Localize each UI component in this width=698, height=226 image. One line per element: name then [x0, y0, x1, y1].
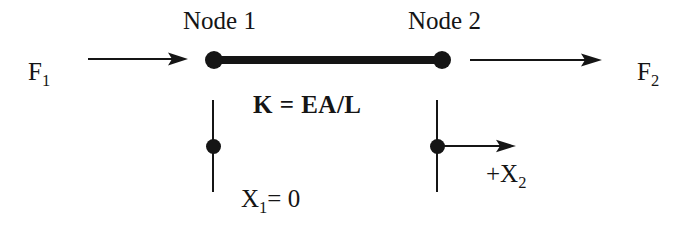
force-f2-symbol: F: [637, 58, 651, 85]
node-1-label: Node 1: [183, 8, 256, 33]
node-1-marker: [205, 51, 223, 69]
node-2-marker: [433, 51, 451, 69]
force-arrow-f2-icon: [470, 51, 602, 69]
displacement-x1-label: X1= 0: [241, 186, 300, 211]
support-dof-marker-node-1: [206, 139, 221, 154]
displacement-x2-label: +X2: [486, 161, 526, 186]
force-f1-label: F1: [28, 59, 50, 84]
force-f2-subscript: 2: [651, 71, 659, 90]
displacement-x1-value: = 0: [267, 185, 300, 212]
force-arrow-f1-icon: [88, 50, 188, 68]
displacement-x2-subscript: 2: [518, 173, 526, 192]
stiffness-formula-label: K = EA/L: [253, 92, 362, 117]
force-f1-symbol: F: [28, 58, 42, 85]
node-2-label: Node 2: [408, 8, 481, 33]
force-f2-label: F2: [637, 59, 659, 84]
displacement-arrow-x2-icon: [444, 138, 516, 154]
bar-element-diagram: Node 1 Node 2 F1 F2 K = EA/L X1= 0 +X2: [0, 0, 698, 226]
support-dof-marker-node-2: [430, 139, 445, 154]
force-f1-subscript: 1: [42, 71, 50, 90]
displacement-x2-symbol: +X: [486, 160, 518, 187]
bar-element: [214, 56, 442, 64]
displacement-x1-symbol: X: [241, 185, 259, 212]
